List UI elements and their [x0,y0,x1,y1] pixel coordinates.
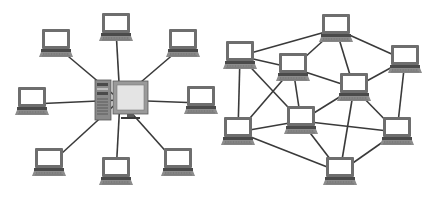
laptop-icon-mesh-D [388,45,422,73]
laptop-icon-star-left [15,87,49,115]
connection-lines [32,29,405,174]
laptop-icon-star-bottom [99,157,133,185]
laptop-icon-mesh-G [221,117,255,145]
server-computer [95,80,148,120]
monitor-icon [113,81,148,119]
laptop-icon-mesh-F [284,106,318,134]
server-tower-icon [95,80,111,120]
laptop-icon-star-right [184,86,218,114]
laptop-icon-star-bottom-right [161,148,195,176]
laptop-icon-mesh-B [223,41,257,69]
laptop-icon-star-bottom-left [32,148,66,176]
mesh-topology-links [238,29,405,172]
network-topology-diagram [0,0,433,197]
laptop-icon-mesh-C [276,53,310,81]
laptop-icon-mesh-I [323,157,357,185]
laptop-icon-mesh-A [319,14,353,42]
laptop-icon-star-top-left [39,29,73,57]
device-nodes [15,13,422,185]
laptop-icon-mesh-E [337,73,371,101]
laptop-icon-star-top-right [166,29,200,57]
laptop-icon-mesh-H [380,117,414,145]
laptop-icon-star-top [99,13,133,41]
